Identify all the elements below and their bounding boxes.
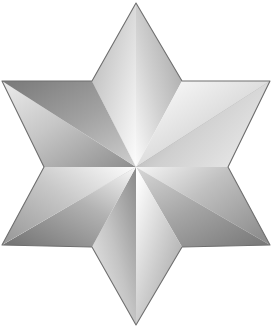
star-illustration-canvas <box>0 0 272 334</box>
star-svg <box>0 0 272 334</box>
